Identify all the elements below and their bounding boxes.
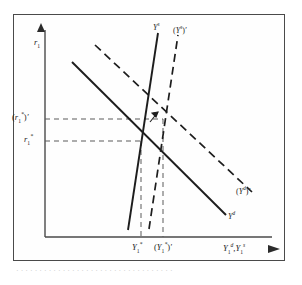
curve-label-demand-original: Yd — [228, 213, 235, 221]
shift-arrow-icon — [150, 112, 158, 122]
x-tick-Y1-star-prime: (Y1*)′ — [154, 243, 172, 252]
demand-curves — [72, 45, 252, 215]
y-axis-label: r1 — [34, 38, 40, 47]
y-tick-r1-star-prime: (r1*)′ — [12, 113, 28, 122]
y-tick-r1-star: r1* — [24, 135, 33, 144]
x-tick-Y1-star: Y1* — [132, 243, 142, 252]
equilibrium-guides — [45, 119, 163, 237]
x-axis-label: Y1d,Y1s — [223, 244, 245, 253]
curve-label-demand-shifted: (Yd)′ — [236, 188, 250, 196]
curve-label-supply-original: Ys — [153, 24, 160, 32]
figure-caption: · · · · · · · · · · · · · · · · · · · · … — [16, 266, 286, 275]
curve-label-supply-shifted: (Ys)′ — [173, 27, 187, 35]
diagram-canvas — [0, 0, 302, 285]
axis-lines — [37, 23, 280, 253]
demand-original-curve — [72, 62, 226, 215]
figure-container: r1 (r1*)′ r1* Ys (Ys)′ (Yd)′ Yd Y1* (Y1*… — [0, 0, 302, 285]
x-axis-arrowhead — [268, 245, 280, 253]
y-axis-arrowhead — [37, 23, 45, 32]
supply-curves — [128, 33, 178, 230]
